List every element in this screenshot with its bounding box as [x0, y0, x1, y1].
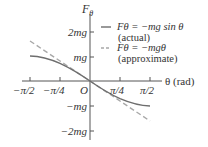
x-tick-pi2: π/2 — [140, 85, 154, 96]
y-tick-2mg: 2mg — [53, 27, 87, 38]
x-tick-neg-pi2: −π/2 — [13, 85, 35, 96]
x-tick-neg-pi4: −π/4 — [43, 85, 65, 96]
y-axis-title-sub: θ — [89, 9, 93, 18]
y-tick-neg-2mg: −2mg — [53, 126, 87, 137]
y-tick-mg: mg — [53, 52, 87, 63]
legend-approx-note: (approximate) — [118, 54, 177, 65]
legend-approx-equation: Fθ = −mgθ — [117, 43, 166, 54]
x-tick-pi4: π/4 — [110, 85, 124, 96]
y-axis-title: Fθ — [82, 3, 93, 18]
y-tick-neg-mg: −mg — [53, 101, 87, 112]
origin-label: O — [80, 85, 88, 96]
x-axis-title: θ (rad) — [165, 76, 194, 87]
legend-actual-equation: Fθ = −mg sin θ — [117, 22, 184, 33]
